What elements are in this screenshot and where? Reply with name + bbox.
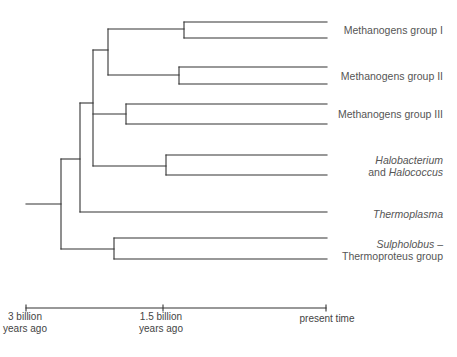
axis-label-line: present time (292, 313, 362, 325)
taxon-label-meth3: Methanogens group III (338, 108, 443, 120)
taxon-label-thermoplasma: Thermoplasma (373, 208, 443, 220)
axis-label-line: 3 billion (0, 311, 50, 323)
label-text: Methanogens group II (341, 70, 443, 82)
axis-label-3-billion: 3 billion years ago (0, 311, 50, 335)
taxon-label-meth2: Methanogens group II (341, 70, 443, 82)
axis-label-present: present time (292, 313, 362, 325)
label-text: Thermoplasma (373, 208, 443, 220)
axis-label-line: years ago (0, 323, 50, 335)
phylogenetic-tree (0, 0, 457, 357)
label-text: Thermoproteus group (342, 250, 443, 262)
taxon-label-meth1: Methanogens group I (344, 24, 443, 36)
label-text: Sulpholobus (376, 238, 434, 250)
axis-label-1-5-billion: 1.5 billion years ago (133, 311, 189, 335)
axis-label-line: years ago (133, 323, 189, 335)
label-text: – (434, 238, 443, 250)
label-text: Methanogens group III (338, 108, 443, 120)
label-text: Halococcus (389, 166, 443, 178)
label-text: Halobacterium (375, 154, 443, 166)
taxon-label-sulpho: Sulpholobus – Thermoproteus group (342, 238, 443, 262)
label-text: Methanogens group I (344, 24, 443, 36)
axis-label-line: 1.5 billion (133, 311, 189, 323)
label-text: and (368, 166, 388, 178)
taxon-label-halo: Halobacterium and Halococcus (368, 154, 443, 178)
